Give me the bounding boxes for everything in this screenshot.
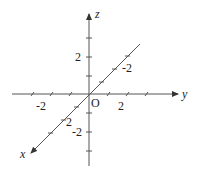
axes-diagram: z y x O 2 -2 -2 2 2 -2: [0, 0, 199, 171]
x-tick-label-pos: 2: [66, 115, 72, 129]
z-tick-label-pos: 2: [75, 50, 81, 64]
z-tick-label-neg: -2: [72, 125, 82, 139]
z-axis-label: z: [94, 7, 100, 21]
x-tick-label-neg: -2: [122, 61, 132, 75]
x-axis-label: x: [19, 147, 26, 161]
origin-label: O: [91, 96, 100, 110]
y-tick-label-neg: -2: [36, 99, 46, 113]
y-axis-label: y: [181, 87, 188, 101]
y-tick-label-pos: 2: [118, 99, 124, 113]
